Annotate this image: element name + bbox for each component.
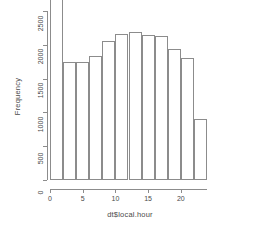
histogram-bar [129,32,142,180]
x-axis-title: dt$local.hour [0,210,260,219]
histogram-bar [89,56,102,180]
histogram-bar [181,58,194,180]
histogram-bar [102,41,115,180]
histogram-bar [142,35,155,180]
histogram-bar [50,0,63,180]
histogram-bar [155,36,168,180]
histogram-bar [194,119,207,180]
histogram-bar [76,62,89,180]
histogram-bars [0,0,260,235]
histogram-bar [63,62,76,180]
histogram-plot: Frequency 05001000150020002500 05101520 … [0,0,260,235]
histogram-bar [168,49,181,180]
histogram-bar [115,34,128,180]
